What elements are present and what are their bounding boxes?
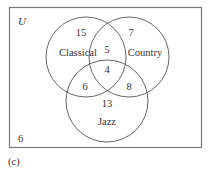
region-jazz-only: 13 <box>102 98 113 109</box>
region-classical-only: 15 <box>76 27 87 38</box>
region-classical-jazz: 6 <box>82 81 87 92</box>
region-country-only: 7 <box>128 27 133 38</box>
region-all-three: 4 <box>104 64 110 75</box>
region-classical-country: 5 <box>104 44 109 55</box>
outside-count: 6 <box>18 133 23 144</box>
set-label-classical: Classical <box>59 47 97 58</box>
figure-caption: (c) <box>8 156 20 168</box>
universe-label: U <box>18 15 27 27</box>
region-country-jazz: 8 <box>126 81 131 92</box>
set-label-country: Country <box>128 47 163 58</box>
venn-diagram: U Classical Country Jazz 15 7 5 4 6 8 13… <box>0 0 210 171</box>
set-label-jazz: Jazz <box>98 116 116 127</box>
